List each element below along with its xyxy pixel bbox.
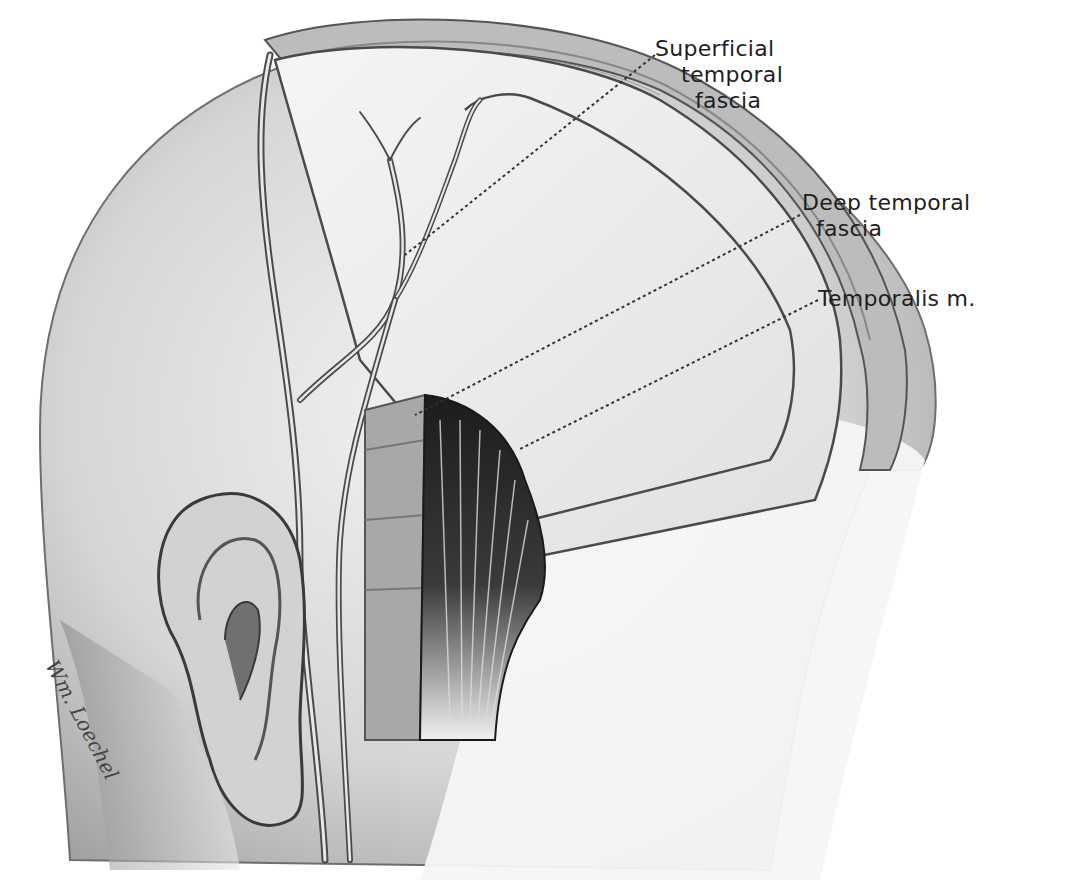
label-line: Deep temporal [802, 190, 971, 216]
label-line: fascia [802, 216, 971, 242]
deep-temporal-fascia [365, 395, 425, 740]
label-temporalis-muscle: Temporalis m. [818, 286, 976, 312]
label-line: Temporalis m. [818, 286, 976, 312]
label-line: temporal [655, 62, 783, 88]
label-line: fascia [655, 88, 783, 114]
label-superficial-temporal-fascia: Superficial temporal fascia [655, 36, 783, 114]
label-deep-temporal-fascia: Deep temporal fascia [802, 190, 971, 242]
label-line: Superficial [655, 36, 783, 62]
anatomical-illustration: Wm. Loechel [0, 0, 1077, 883]
